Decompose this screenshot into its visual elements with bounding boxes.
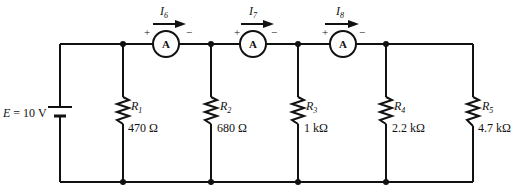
ammeter-3: A + − I8: [322, 4, 365, 57]
svg-text:−: −: [186, 26, 192, 38]
resistor-r1: [117, 44, 129, 182]
resistor-r3: [292, 44, 304, 182]
battery-branch: [48, 44, 72, 182]
svg-text:−: −: [271, 26, 277, 38]
svg-text:470 Ω: 470 Ω: [128, 121, 158, 135]
svg-text:I6: I6: [159, 4, 168, 20]
svg-text:+: +: [144, 26, 150, 38]
resistor-r2: [205, 44, 217, 182]
ammeter-2: A + − I7: [234, 4, 277, 57]
svg-text:2.2 kΩ: 2.2 kΩ: [392, 121, 425, 135]
svg-text:1 kΩ: 1 kΩ: [304, 121, 328, 135]
svg-text:R4: R4: [393, 99, 405, 115]
svg-text:R2: R2: [219, 99, 231, 115]
source-label: E = 10 V: [2, 106, 47, 120]
svg-text:R3: R3: [305, 99, 317, 115]
circuit-svg: E = 10 V A + −: [0, 0, 515, 192]
r4-label: R4 2.2 kΩ: [392, 99, 425, 135]
svg-text:R5: R5: [481, 99, 493, 115]
svg-text:+: +: [234, 26, 240, 38]
ammeter-1: A + − I6: [144, 4, 192, 57]
svg-text:+: +: [322, 26, 328, 38]
svg-text:680 Ω: 680 Ω: [217, 121, 247, 135]
svg-text:A: A: [339, 38, 347, 50]
svg-text:I8: I8: [335, 4, 344, 20]
resistor-r4: [380, 44, 392, 182]
svg-text:A: A: [249, 38, 257, 50]
r3-label: R3 1 kΩ: [304, 99, 328, 135]
svg-text:A: A: [162, 38, 170, 50]
r2-label: R2 680 Ω: [217, 99, 247, 135]
r1-label: R1 470 Ω: [128, 99, 158, 135]
svg-text:R1: R1: [130, 99, 142, 115]
circuit-diagram: E = 10 V A + −: [0, 0, 515, 192]
junction-dots: [120, 41, 389, 185]
svg-text:−: −: [359, 26, 365, 38]
r5-label: R5 4.7 kΩ: [478, 99, 511, 135]
svg-text:I7: I7: [248, 4, 258, 20]
svg-text:4.7 kΩ: 4.7 kΩ: [478, 121, 511, 135]
